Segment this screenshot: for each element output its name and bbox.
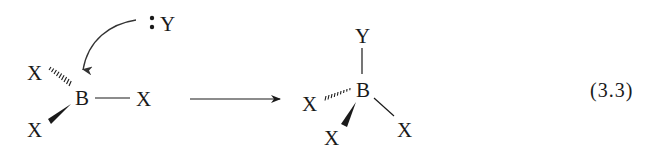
nucleophile: Y bbox=[150, 12, 175, 36]
atom-x-plain: X bbox=[136, 87, 151, 111]
atom-y-nucleophile: Y bbox=[160, 12, 175, 36]
product-molecule: Y B X X X bbox=[302, 24, 412, 150]
hashed-bond-product bbox=[325, 88, 350, 101]
atom-x-hashed-product: X bbox=[302, 92, 317, 116]
curved-arrow-icon bbox=[83, 20, 136, 70]
atom-x-wedged-product: X bbox=[324, 126, 339, 150]
wedge-bond bbox=[48, 104, 71, 124]
atom-boron: B bbox=[75, 86, 89, 110]
lone-pair-dot-bottom bbox=[150, 25, 154, 29]
atom-x-wedged: X bbox=[27, 118, 42, 142]
single-bond-right bbox=[374, 98, 394, 116]
atom-y-product: Y bbox=[355, 24, 370, 48]
atom-x-plain-product: X bbox=[397, 118, 412, 142]
lone-pair-dot-top bbox=[150, 16, 154, 20]
hashed-bond bbox=[49, 67, 71, 86]
atom-boron-product: B bbox=[356, 78, 370, 102]
equation-number: (3.3) bbox=[590, 79, 633, 102]
atom-x-hashed: X bbox=[27, 61, 42, 85]
reactant-molecule: Y X B X X bbox=[27, 12, 175, 142]
reaction-scheme: Y X B X X Y B bbox=[0, 0, 669, 155]
wedge-bond-product bbox=[341, 102, 356, 127]
